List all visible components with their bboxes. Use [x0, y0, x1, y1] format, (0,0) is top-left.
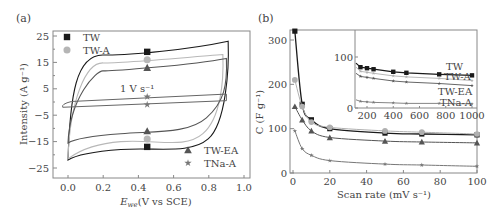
square-marker-icon: [371, 67, 375, 71]
square-marker-icon: [437, 72, 441, 76]
star-marker-icon: [391, 79, 395, 83]
x-tick-label: 60: [397, 176, 410, 187]
y-tick-label: −25: [28, 163, 49, 174]
x-axis-label: Ewe(V vs SCE): [119, 196, 192, 209]
square-marker-icon: [365, 66, 369, 70]
y-tick-label: 15: [36, 57, 49, 68]
inset-series-label: TNa-A: [440, 97, 473, 108]
square-marker-icon: [144, 144, 150, 150]
square-legend-icon: [64, 34, 70, 40]
y-axis-label: Intensity (A g⁻¹): [18, 63, 29, 145]
x-tick-label: 0.8: [201, 182, 217, 193]
x-tick-label: 0: [290, 176, 296, 187]
inset-x-tick-label: 800: [436, 110, 455, 121]
triangle-marker-icon: [292, 103, 298, 109]
inset-series-label: TW-A: [444, 71, 472, 82]
y-tick-label: 0: [281, 168, 287, 179]
inset-y-tick-label: 100: [334, 52, 353, 63]
inset-x-tick-label: 1000: [459, 110, 484, 121]
inset-x-tick-label: 200: [357, 110, 376, 121]
star-legend-icon: [184, 159, 191, 166]
circle-marker-icon: [299, 104, 305, 110]
circle-legend-icon: [63, 46, 70, 53]
x-tick-label: 20: [323, 176, 336, 187]
legend-label: TW: [83, 32, 101, 43]
cv-chart: 25155−5−15−25 0.00.20.40.60.81.0 1 V s⁻¹…: [18, 31, 252, 210]
circle-marker-icon: [292, 77, 298, 83]
x-tick-label: 0.4: [130, 182, 146, 193]
y-axis-label: C (F g⁻¹): [254, 90, 265, 135]
y-tick-label: 100: [268, 123, 287, 134]
square-marker-icon: [404, 71, 408, 75]
star-marker-icon: [144, 101, 151, 108]
circle-marker-icon: [309, 119, 315, 125]
inset-x-tick-label: 400: [384, 110, 403, 121]
legend-label: TW-EA: [204, 145, 239, 156]
inset-x-tick-label: 600: [410, 110, 429, 121]
y-tick-label: 25: [36, 31, 49, 42]
inset-y-tick-label: 0: [347, 103, 353, 114]
triangle-marker-icon: [143, 127, 151, 134]
legend-bottom: TW-EATNa-A: [184, 145, 239, 169]
square-marker-icon: [358, 65, 362, 69]
y-tick-label: 300: [268, 35, 287, 46]
panel-a-label: (a): [16, 12, 31, 25]
circle-marker-icon: [474, 131, 480, 137]
scan-rate-annotation: 1 V s⁻¹: [120, 83, 154, 94]
square-marker-icon: [144, 49, 150, 55]
x-tick-label: 0.6: [166, 182, 182, 193]
x-tick-label: 40: [360, 176, 373, 187]
circle-marker-icon: [144, 56, 151, 63]
y-tick-label: 5: [43, 83, 49, 94]
square-marker-icon: [391, 70, 395, 74]
circle-marker-icon: [419, 129, 425, 135]
inset-series-label: TW-EA: [438, 86, 473, 97]
x-tick-label: 80: [434, 176, 447, 187]
circle-marker-icon: [327, 124, 333, 130]
legend-top: TWTW-A: [63, 32, 110, 56]
triangle-marker-icon: [299, 117, 305, 123]
legend-label: TNa-A: [204, 158, 237, 169]
cv-markers: [143, 49, 151, 150]
x-tick-label: 0.2: [95, 182, 111, 193]
inset-y-axis: 0100: [334, 52, 358, 114]
square-marker-icon: [292, 29, 297, 34]
inset-chart: 0100 2004006008001000 TWTW-ATW-EATNa-A: [334, 30, 485, 121]
capacitance-chart: 0100200300 020406080100 0100 20040060080…: [254, 29, 487, 200]
legend-label: TW-A: [83, 45, 111, 56]
y-tick-label: −15: [28, 136, 49, 147]
circle-marker-icon: [382, 128, 388, 134]
y-tick-label: 200: [268, 79, 287, 90]
panel-b-label: (b): [258, 12, 274, 25]
x-axis-label: Scan rate (mV s⁻¹): [337, 189, 431, 200]
x-tick-label: 0.0: [60, 182, 76, 193]
circle-marker-icon: [144, 135, 151, 142]
x-tick-label: 100: [467, 176, 486, 187]
y-tick-label: −5: [34, 110, 49, 121]
x-tick-label: 1.0: [236, 182, 252, 193]
figure: (a) (b) 25155−5−15−25 0.00.20.40.60.81.0…: [0, 0, 496, 214]
